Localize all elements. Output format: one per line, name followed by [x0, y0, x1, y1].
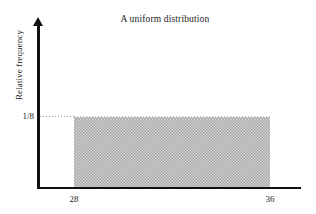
x-tick-label-28: 28: [59, 194, 89, 204]
chart-title: A uniform distribution: [58, 14, 272, 24]
y-tick-label-one-eighth: 1/8: [8, 111, 34, 121]
y-axis-label: Relative frequency: [14, 10, 24, 120]
uniform-distribution-figure: A uniform distribution Relative frequenc…: [0, 0, 316, 214]
y-axis-line: [37, 24, 40, 189]
y-tick-leader-line: [40, 116, 74, 117]
uniform-distribution-bar: [74, 117, 270, 187]
x-tick-label-36: 36: [255, 194, 285, 204]
x-axis-line: [37, 187, 301, 189]
